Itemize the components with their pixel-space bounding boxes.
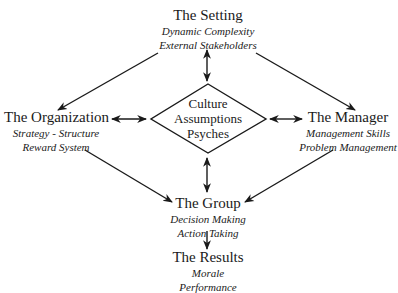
group-line-2: Action Taking <box>148 227 268 239</box>
setting-line-1: Dynamic Complexity <box>138 25 278 37</box>
arrow-organization-to-group <box>85 150 172 202</box>
node-manager: The Manager Management Skills Problem Ma… <box>298 110 398 153</box>
setting-title: The Setting <box>138 8 278 23</box>
organization-line-1: Strategy - Structure <box>4 127 108 139</box>
results-line-2: Performance <box>148 281 268 293</box>
setting-line-2: External Stakeholders <box>138 39 278 51</box>
organization-title: The Organization <box>4 110 108 125</box>
group-line-1: Decision Making <box>148 213 268 225</box>
node-group: The Group Decision Making Action Taking <box>148 196 268 239</box>
arrow-manager-to-group <box>245 150 333 202</box>
node-setting: The Setting Dynamic Complexity External … <box>138 8 278 51</box>
results-line-1: Morale <box>148 267 268 279</box>
results-title: The Results <box>148 250 268 265</box>
group-title: The Group <box>148 196 268 211</box>
organization-line-2: Reward System <box>4 141 108 153</box>
center-line-2: Assumptions <box>158 111 258 126</box>
manager-line-2: Problem Management <box>298 141 398 153</box>
arrow-setting-to-manager <box>256 53 355 110</box>
node-center: Culture Assumptions Psyches <box>158 96 258 141</box>
center-line-3: Psyches <box>158 126 258 141</box>
manager-title: The Manager <box>298 110 398 125</box>
manager-line-1: Management Skills <box>298 127 398 139</box>
arrow-setting-to-organization <box>58 53 158 110</box>
node-organization: The Organization Strategy - Structure Re… <box>4 110 108 153</box>
center-line-1: Culture <box>158 96 258 111</box>
node-results: The Results Morale Performance <box>148 250 268 293</box>
